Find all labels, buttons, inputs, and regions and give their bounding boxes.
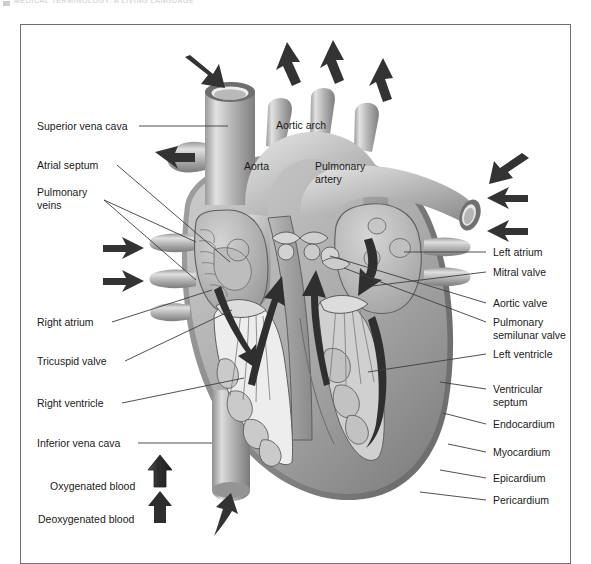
- label-inferior-vena-cava: Inferior vena cava: [37, 437, 120, 450]
- label-pulmonary-veins: Pulmonary veins: [37, 186, 87, 211]
- label-ventricular-septum: Ventricular septum: [493, 383, 543, 408]
- label-right-ventricle: Right ventricle: [37, 397, 104, 410]
- scan-header-text: MEDICAL TERMINOLOGY: A LIVING LANGUAGE: [14, 0, 194, 4]
- label-pulmonary-artery: Pulmonary artery: [315, 160, 365, 185]
- label-aortic-arch: Aortic arch: [276, 119, 326, 132]
- label-aorta: Aorta: [244, 160, 269, 173]
- scan-header: MEDICAL TERMINOLOGY: A LIVING LANGUAGE: [0, 0, 591, 11]
- label-tricuspid-valve: Tricuspid valve: [37, 355, 107, 368]
- label-aortic-valve: Aortic valve: [493, 297, 547, 310]
- label-mitral-valve: Mitral valve: [493, 266, 546, 279]
- label-right-atrium: Right atrium: [37, 316, 94, 329]
- label-endocardium: Endocardium: [493, 418, 555, 431]
- label-epicardium: Epicardium: [493, 472, 546, 485]
- legend-label-oxygenated-blood: Oxygenated blood: [50, 480, 135, 492]
- label-pericardium: Pericardium: [493, 494, 549, 507]
- header-bullet-icon: [3, 1, 10, 6]
- label-left-ventricle: Left ventricle: [493, 348, 553, 361]
- label-pulmonary-semilunar-valve: Pulmonary semilunar valve: [493, 316, 566, 341]
- label-superior-vena-cava: Superior vena cava: [37, 120, 127, 133]
- legend-label-deoxygenated-blood: Deoxygenated blood: [38, 513, 134, 525]
- label-left-atrium: Left atrium: [493, 246, 543, 259]
- label-atrial-septum: Atrial septum: [37, 159, 98, 172]
- label-myocardium: Myocardium: [493, 446, 550, 459]
